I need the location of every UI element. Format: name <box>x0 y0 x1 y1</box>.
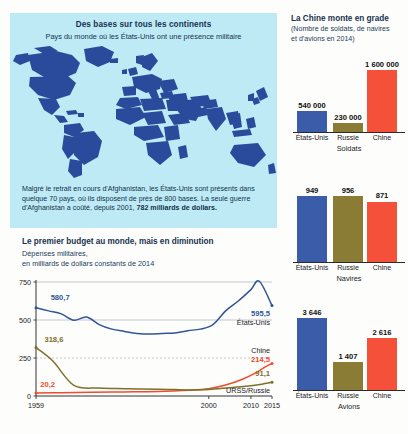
series-lines <box>35 281 274 395</box>
map-panel: Des bases sur tous les continents Pays d… <box>10 13 277 228</box>
map-countries <box>13 46 276 178</box>
series-end-point <box>271 304 274 307</box>
x-tick-label: 2015 <box>264 401 280 410</box>
series-start-point <box>35 306 38 309</box>
bar-category-label: Chine <box>358 134 406 142</box>
map-note: Malgré le retrait en cours d'Afghanistan… <box>22 185 267 214</box>
line-chart-svg: 0250500750 1959200020102015 580,7595,5Ét… <box>0 270 290 430</box>
x-tick-label: 2000 <box>201 401 217 410</box>
bar-chart-avions: 3 646États-Unis1 407Russie2 616ChineAvio… <box>291 300 407 430</box>
series-end-point <box>271 381 274 384</box>
data-labels: 580,7595,5États-Unis20,2214,5Chine318,69… <box>40 293 271 395</box>
label-urss-start: 318,6 <box>44 335 63 344</box>
bar-axis-line <box>293 390 405 391</box>
bar-avions-2 <box>367 338 397 390</box>
x-tick-label: 2010 <box>243 401 259 410</box>
line-chart: 0250500750 1959200020102015 580,7595,5Ét… <box>0 270 290 430</box>
series-line-urss-russie <box>36 348 272 390</box>
bar-category-label: Chine <box>358 264 406 272</box>
y-tick-label: 500 <box>19 316 31 325</box>
bar-chart-navires: 949États-Unis956Russie871ChineNavires <box>291 178 407 296</box>
bar-value-label: 2 616 <box>356 328 408 337</box>
right-subtitle-line-1: (Nombre de soldats, de navires <box>291 25 390 33</box>
legend-chine: Chine <box>251 346 270 355</box>
bar-chart-unit-label: Soldats <box>291 144 407 153</box>
bar-chart-unit-label: Navires <box>291 274 407 283</box>
bar-value-label: 3 646 <box>286 308 338 317</box>
y-tick-label: 750 <box>19 278 31 287</box>
right-column-title: La Chine monte en grade <box>291 14 389 23</box>
right-subtitle-line-2: et d'avions en 2014) <box>291 35 355 43</box>
series-end-point <box>271 362 274 365</box>
bar-soldats-1 <box>333 123 363 132</box>
line-chart-subtitle-1: Dépenses militaires, <box>22 249 88 258</box>
bar-chart-unit-label: Avions <box>291 402 407 411</box>
bar-category-label: Chine <box>358 392 406 400</box>
bar-axis-line <box>293 132 405 133</box>
line-chart-title: Le premier budget au monde, mais en dimi… <box>22 237 214 246</box>
bar-value-label: 1 600 000 <box>356 60 408 69</box>
label-urss-end: 91,1 <box>255 369 271 378</box>
bar-navires-1 <box>333 196 363 262</box>
right-column-subtitle: (Nombre de soldats, de navires et d'avio… <box>291 25 407 44</box>
x-axis: 1959200020102015 <box>28 396 280 410</box>
bar-avions-1 <box>333 362 363 390</box>
y-tick-label: 250 <box>19 354 31 363</box>
bar-navires-0 <box>297 196 327 262</box>
bar-soldats-2 <box>367 70 397 132</box>
world-map-svg <box>10 43 277 178</box>
bar-value-label: 540 000 <box>286 101 338 110</box>
label-chine-start: 20,2 <box>40 380 55 389</box>
series-start-point <box>35 391 38 394</box>
line-chart-subtitle-2: en milliards de dollars constants de 201… <box>22 259 154 268</box>
series-start-point <box>35 346 38 349</box>
legend-etats-unis: États-Unis <box>237 318 271 327</box>
bar-navires-2 <box>367 202 397 262</box>
infographic-root: Des bases sur tous les continents Pays d… <box>0 0 408 434</box>
bar-axis-line <box>293 262 405 263</box>
x-tick-label: 1959 <box>28 401 44 410</box>
label-us-start: 580,7 <box>51 293 70 302</box>
bar-chart-soldats: 540 000États-Unis230 000Russie1 600 000C… <box>291 52 407 174</box>
map-note-highlight: 782 milliards de dollars. <box>137 204 217 212</box>
bar-value-label: 871 <box>356 191 408 200</box>
map-subtitle: Pays du monde où les États-Unis ont une … <box>10 32 277 41</box>
map-title: Des bases sur tous les continents <box>10 20 277 29</box>
legend-urss-russie: URSS/Russie <box>226 386 270 395</box>
label-chine-end: 214,5 <box>251 355 271 364</box>
label-us-end: 595,5 <box>251 309 271 318</box>
world-map <box>10 43 277 178</box>
y-tick-label: 0 <box>27 392 31 401</box>
